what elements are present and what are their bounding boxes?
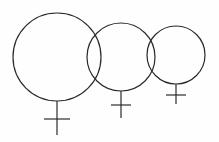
symbol-ring	[13, 13, 101, 101]
venus-symbols-diagram	[0, 0, 219, 142]
venus-symbol-large-icon	[13, 13, 101, 135]
venus-symbol-small-icon	[147, 26, 205, 104]
symbol-ring	[147, 26, 205, 84]
diagram-canvas	[0, 0, 219, 142]
symbol-ring	[87, 23, 155, 91]
venus-symbol-medium-icon	[87, 23, 155, 118]
